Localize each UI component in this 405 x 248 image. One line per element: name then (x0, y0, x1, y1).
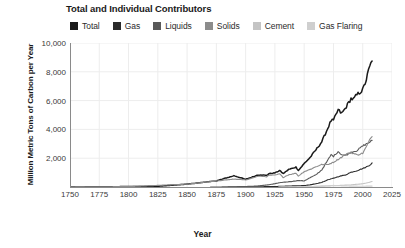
series-line-liquids (211, 140, 373, 187)
x-axis-title: Year (0, 229, 405, 239)
x-tick-label: 1775 (90, 190, 108, 199)
legend-item-liquids[interactable]: Liquids (153, 21, 192, 31)
gridlines (70, 43, 392, 187)
legend-item-label: Liquids (165, 21, 192, 31)
legend-item-cement[interactable]: Cement (253, 21, 294, 31)
y-tick-label: 6,000 (0, 96, 66, 105)
legend-swatch-icon (307, 22, 315, 30)
x-tick-label: 1825 (149, 190, 167, 199)
x-axis-line (70, 187, 393, 188)
y-tick-label: 10,000 (0, 39, 66, 48)
y-axis-line (70, 43, 71, 188)
x-tick-label: 1750 (61, 190, 79, 199)
x-tick-label: 1900 (237, 190, 255, 199)
legend-item-solids[interactable]: Solids (205, 21, 240, 31)
legend-swatch-icon (253, 22, 261, 30)
series-line-total (71, 61, 372, 187)
x-tick-label: 1975 (325, 190, 343, 199)
legend-swatch-icon (70, 22, 78, 30)
chart-legend: TotalGasLiquidsSolidsCementGas Flaring (70, 19, 375, 33)
y-axis-title: Million Metric Tons of Carbon per Year (26, 40, 35, 190)
plot-area (70, 43, 392, 187)
legend-item-label: Solids (217, 21, 240, 31)
legend-item-label: Cement (265, 21, 294, 31)
x-tick-label: 2025 (383, 190, 401, 199)
legend-item-label: Total (82, 21, 100, 31)
x-tick-label: 1800 (120, 190, 138, 199)
legend-item-label: Gas Flaring (319, 21, 362, 31)
y-tick-label: 4,000 (0, 125, 66, 134)
plot-svg (70, 43, 392, 187)
x-tick-label: 1850 (178, 190, 196, 199)
chart-title: Total and Individual Contributors (66, 3, 211, 14)
legend-item-total[interactable]: Total (70, 21, 100, 31)
x-tick-label: 1875 (207, 190, 225, 199)
y-tick-label: 8,000 (0, 67, 66, 76)
x-tick-label: 2000 (354, 190, 372, 199)
chart-figure: Total and Individual Contributors TotalG… (0, 0, 405, 248)
legend-swatch-icon (113, 22, 121, 30)
legend-swatch-icon (205, 22, 213, 30)
series-lines (71, 61, 372, 187)
legend-item-label: Gas (125, 21, 140, 31)
x-tick-label: 1950 (295, 190, 313, 199)
legend-swatch-icon (153, 22, 161, 30)
legend-item-gas-flaring[interactable]: Gas Flaring (307, 21, 362, 31)
legend-item-gas[interactable]: Gas (113, 21, 140, 31)
x-tick-label: 1925 (266, 190, 284, 199)
y-tick-label: 2,000 (0, 154, 66, 163)
